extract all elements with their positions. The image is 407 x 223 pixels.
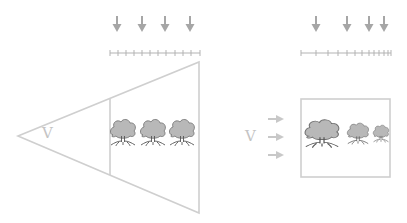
view-label-left: V <box>42 126 53 141</box>
ruler-right <box>301 50 391 56</box>
tree-icon-medium <box>347 123 368 144</box>
tree-icon <box>140 119 165 146</box>
tree-icon <box>110 119 135 146</box>
right-arrow-icon <box>268 115 284 123</box>
ruler-left <box>110 50 200 56</box>
down-arrow-icon <box>365 16 374 32</box>
down-arrows-left <box>113 16 195 32</box>
right-arrow-icon <box>268 151 284 159</box>
right-panel <box>268 16 391 177</box>
trees-left <box>110 119 194 146</box>
down-arrow-icon <box>161 16 170 32</box>
down-arrow-icon <box>186 16 195 32</box>
down-arrows-right <box>312 16 389 32</box>
down-arrow-icon <box>113 16 122 32</box>
side-arrows <box>268 115 284 159</box>
tree-icon-large <box>305 120 339 148</box>
down-arrow-icon <box>312 16 321 32</box>
trees-right <box>305 120 389 148</box>
down-arrow-icon <box>343 16 352 32</box>
down-arrow-icon <box>138 16 147 32</box>
projection-diagram <box>0 0 407 223</box>
left-panel <box>18 16 200 213</box>
right-arrow-icon <box>268 133 284 141</box>
view-label-right: V <box>245 129 256 144</box>
tree-icon-small <box>373 125 388 142</box>
down-arrow-icon <box>380 16 389 32</box>
tree-icon <box>169 119 194 146</box>
